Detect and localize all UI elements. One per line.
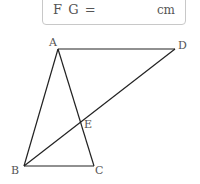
label-e: E <box>84 118 92 131</box>
segment-ac <box>58 49 94 166</box>
geometry-figure: A D E B C <box>0 0 200 184</box>
label-c: C <box>95 164 103 177</box>
segment-ab <box>24 49 58 166</box>
label-b: B <box>11 164 19 177</box>
label-a: A <box>48 36 58 49</box>
label-d: D <box>178 39 187 52</box>
segment-bd <box>24 49 175 166</box>
